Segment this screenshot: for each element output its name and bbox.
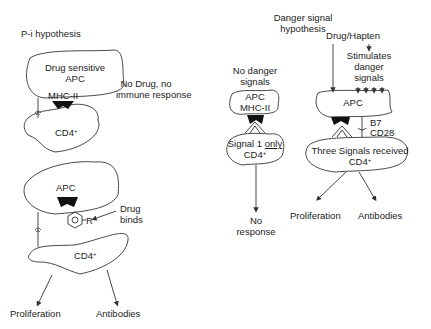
no-danger-header-line1: No danger <box>220 65 290 76</box>
no-response-line1: No <box>236 215 276 226</box>
mhc-wedge-danger <box>331 117 350 125</box>
antibodies-label-right: Antibodies <box>358 210 402 221</box>
apc-label-line1: Drug sensitive <box>40 62 110 73</box>
no-drug-note-line2: immune response <box>116 89 176 100</box>
no-danger-apc-label: APC <box>235 91 275 102</box>
apc-label-bottom: APC <box>56 182 76 193</box>
stimulates-line3: signals <box>339 72 399 83</box>
drug-binds-line2: binds <box>120 214 143 225</box>
danger-cd4-label: CD4+ <box>340 156 380 167</box>
no-danger-cd4-label: CD4+ <box>235 149 275 160</box>
apc-label-line2: APC <box>40 73 110 84</box>
proliferation-label-right: Proliferation <box>290 210 341 221</box>
no-danger-header-line2: signals <box>220 76 290 87</box>
stimulates-line1: Stimulates <box>339 50 399 61</box>
no-response-line2: response <box>230 226 282 237</box>
drug-binds-line1: Drug <box>120 203 141 214</box>
drug-hapten-label: Drug/Hapten <box>323 30 383 41</box>
mhc-ii-label: MHC-II <box>48 90 78 101</box>
three-signals-label: Three Signals received <box>310 145 410 156</box>
proliferation-label-left: Proliferation <box>10 308 61 319</box>
danger-title-line1: Danger signal <box>263 12 343 23</box>
cd4-label-bottom: CD4+ <box>74 250 97 261</box>
pi-hypothesis-title: P-i hypothesis <box>21 28 81 39</box>
antibodies-label-left: Antibodies <box>96 308 140 319</box>
cd4-label-top: CD4+ <box>55 127 78 138</box>
no-danger-mhc-label: MHC-II <box>235 102 275 113</box>
no-drug-note-line1: No Drug, no <box>116 78 176 89</box>
cd28-label: CD28 <box>370 127 394 138</box>
drug-r-group: R <box>86 215 93 226</box>
signal-1-only-label: Signal 1 only <box>225 138 285 149</box>
danger-apc-label: APC <box>333 97 373 108</box>
stimulates-line2: danger <box>339 61 399 72</box>
mhc-wedge-bottom <box>57 197 78 207</box>
